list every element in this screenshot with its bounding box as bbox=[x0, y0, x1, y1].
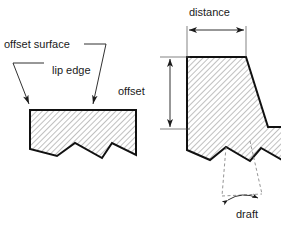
right-figure bbox=[187, 57, 281, 161]
distance-label: distance bbox=[189, 6, 230, 18]
lip-edge-leader bbox=[13, 63, 44, 104]
draft-label: draft bbox=[236, 208, 258, 220]
technical-drawing: offset surface lip edge distance offset bbox=[0, 0, 281, 225]
right-profile-shape bbox=[187, 57, 281, 161]
offset-label: offset bbox=[118, 85, 145, 97]
lip-edge-annotation: lip edge bbox=[13, 63, 91, 104]
draft-dashed-left bbox=[222, 147, 226, 196]
left-profile-shape bbox=[30, 110, 136, 158]
diagram-canvas: offset surface lip edge distance offset bbox=[0, 0, 281, 225]
offset-surface-label: offset surface bbox=[4, 38, 70, 50]
distance-dimension: distance bbox=[187, 6, 246, 57]
left-figure bbox=[30, 110, 136, 158]
draft-angle-arc bbox=[228, 195, 258, 200]
lip-edge-label: lip edge bbox=[52, 64, 91, 76]
